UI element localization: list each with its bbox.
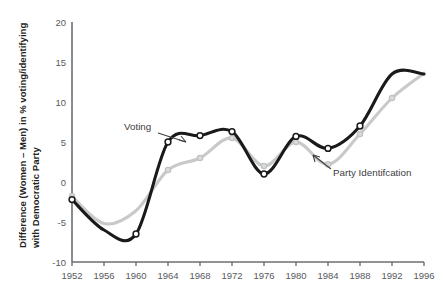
data-point — [357, 123, 363, 129]
y-tick--10: -10 — [52, 257, 66, 268]
y-tick-5: 5 — [61, 137, 66, 148]
series-markers-party-identification — [69, 95, 394, 199]
x-tick-1996: 1996 — [413, 270, 434, 281]
y-axis-title: Difference (Women – Men) in % voting/ide… — [17, 23, 41, 249]
chart-figure: Difference (Women – Men) in % voting/ide… — [0, 0, 444, 293]
voting-annotation-arrowhead — [179, 136, 186, 142]
x-tick-1956: 1956 — [93, 270, 114, 281]
line-chart: Difference (Women – Men) in % voting/ide… — [0, 0, 444, 293]
data-point — [197, 133, 203, 139]
data-point — [293, 139, 298, 144]
data-point — [229, 129, 235, 135]
y-axis-title-line1: Difference (Women – Men) in % voting/ide… — [17, 23, 28, 248]
x-tick-1988: 1988 — [349, 270, 370, 281]
x-axis-tick-labels: 1952 1956 1960 1964 1968 1972 1976 1980 … — [61, 270, 434, 281]
party-annotation-label: Party Identifcation — [333, 167, 411, 178]
data-point — [261, 171, 267, 177]
x-tick-1964: 1964 — [157, 270, 178, 281]
y-tick-15: 15 — [55, 57, 66, 68]
data-point — [229, 135, 234, 140]
series-line-voting — [72, 70, 424, 241]
party-annotation: Party Identifcation — [313, 155, 411, 178]
x-tick-1972: 1972 — [221, 270, 242, 281]
x-tick-1980: 1980 — [285, 270, 306, 281]
x-tick-1984: 1984 — [317, 270, 338, 281]
voting-annotation-label: Voting — [124, 121, 151, 132]
data-point — [357, 131, 362, 136]
x-tick-1992: 1992 — [381, 270, 402, 281]
x-tick-1976: 1976 — [253, 270, 274, 281]
data-point — [165, 139, 171, 145]
x-tick-1952: 1952 — [61, 270, 82, 281]
x-tick-1968: 1968 — [189, 270, 210, 281]
data-point — [165, 167, 170, 172]
data-point — [133, 231, 139, 237]
data-point — [325, 146, 331, 152]
data-point — [261, 163, 266, 168]
y-axis-tick-labels: 20 15 10 5 0 -5 -10 — [52, 17, 66, 268]
data-point — [293, 134, 299, 140]
y-axis-title-line2: with Democratic Party — [30, 147, 41, 249]
data-point — [389, 95, 394, 100]
data-point — [69, 197, 75, 203]
series-line-party-identification — [72, 73, 424, 224]
data-point — [197, 155, 202, 160]
y-tick-10: 10 — [55, 97, 66, 108]
series-markers-voting — [69, 123, 363, 237]
voting-annotation: Voting — [124, 121, 186, 142]
x-tick-1960: 1960 — [125, 270, 146, 281]
y-tick-0: 0 — [61, 177, 66, 188]
y-tick--5: -5 — [58, 217, 66, 228]
y-tick-20: 20 — [55, 17, 66, 28]
